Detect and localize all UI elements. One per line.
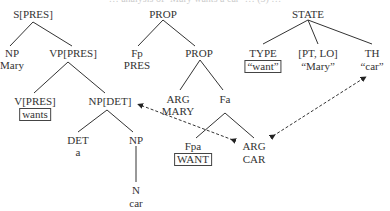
node-arg-mary: ARG [166,93,189,105]
node-arg-car: ARG [242,140,265,152]
word-a: a [76,146,81,158]
word-pres: PRES [124,59,150,71]
node-prop-2: PROP [185,47,213,59]
word-wants-boxed: wants [19,108,51,121]
node-s-pres: S[PRES] [13,8,53,20]
node-state: STATE [292,8,324,20]
node-type: TYPE [249,47,277,59]
word-mary-quoted: “Mary” [301,60,335,72]
node-th: TH [365,47,380,59]
node-vp-pres: VP[PRES] [49,47,97,59]
node-det: DET [67,134,88,146]
node-v-pres: V[PRES] [14,95,56,107]
node-fp: Fp [131,47,143,59]
node-pt-lo: [PT, LO] [298,47,338,59]
node-fpa: Fpa [185,140,202,152]
node-np-2: NP [129,134,143,146]
word-want-quoted-boxed: “want” [244,60,281,73]
word-car: car [129,197,142,209]
node-np-det: NP[DET] [89,95,132,107]
node-n: N [132,184,140,196]
word-mary: Mary [0,59,24,71]
word-mary-sem: MARY [162,105,194,117]
node-prop: PROP [149,8,177,20]
node-np: NP [5,47,19,59]
node-fa: Fa [220,93,231,105]
tree-edges [0,0,390,211]
word-want-boxed: WANT [174,153,212,166]
word-car-sem: CAR [243,153,266,165]
word-car-quoted: “car” [360,60,383,72]
